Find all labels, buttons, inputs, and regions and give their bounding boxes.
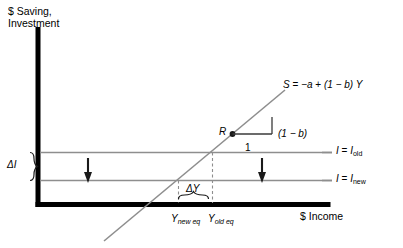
inv-old-i: I [336, 145, 339, 156]
y-new-eq-subscript: new eq [178, 218, 201, 225]
slope-rise-label: (1 − b) [278, 128, 307, 140]
saving-eq-equals: = [292, 79, 298, 90]
saving-eq-s: S [283, 79, 290, 90]
y-axis [36, 27, 41, 207]
y-old-eq-base: Y [208, 213, 215, 224]
inv-old-equals: = [342, 145, 348, 156]
x-axis-title: $ Income [300, 210, 343, 222]
saving-equation-label: S = −a + (1 − b) Y [283, 79, 362, 91]
y-new-eq-base: Y [171, 213, 178, 224]
delta-y-label: ΔY [186, 183, 199, 195]
inv-old-subscript: old [353, 150, 362, 157]
inv-new-i: I [336, 173, 339, 184]
y-axis-title: $ Saving, Investment [8, 5, 59, 30]
saving-eq-plus: + [315, 79, 321, 90]
saving-eq-one-minus-b: (1 − b) [324, 79, 353, 90]
saving-eq-y: Y [356, 79, 363, 90]
investment-new-label: I = Inew [336, 173, 366, 185]
slope-run-label: 1 [245, 142, 251, 154]
x-axis [36, 202, 331, 207]
y-new-eq-label: Ynew eq [171, 213, 200, 225]
saving-eq-minus-a: −a [301, 79, 312, 90]
y-axis-title-line2: Investment [8, 17, 59, 29]
y-old-eq-subscript: old eq [215, 218, 234, 225]
delta-i-label: ΔI [7, 159, 17, 171]
point-r-label: R [219, 126, 226, 138]
y-old-eq-label: Yold eq [208, 213, 234, 225]
investment-old-label: I = Iold [336, 145, 362, 157]
y-axis-title-line1: $ Saving, [8, 5, 59, 17]
inv-new-equals: = [342, 173, 348, 184]
inv-new-subscript: new [353, 178, 366, 185]
